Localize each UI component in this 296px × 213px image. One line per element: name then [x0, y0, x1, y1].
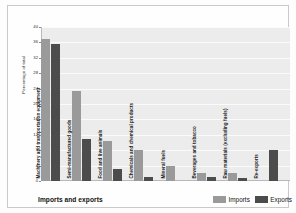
bar-exports[interactable] — [113, 169, 122, 181]
legend-label: Exports — [270, 196, 292, 203]
legend-swatch — [213, 196, 226, 203]
chart-frame: Percentage of total 0481216202428323640 … — [7, 5, 289, 208]
bar-slot — [228, 27, 237, 181]
legend-entry-exports[interactable]: Exports — [255, 196, 292, 203]
bar-slot — [103, 27, 112, 181]
bar-imports[interactable] — [228, 173, 237, 181]
bar-slot — [41, 27, 50, 181]
bar-imports[interactable] — [103, 141, 112, 181]
bar-slot — [72, 27, 81, 181]
category-label: Re-exports — [255, 155, 260, 179]
bar-groups: Machinery and transportation equipmentSe… — [41, 27, 290, 181]
plot-area: 0481216202428323640 Machinery and transp… — [41, 27, 290, 181]
bar-slot — [176, 27, 185, 181]
category-label: Food and live animals — [100, 130, 105, 179]
category-label: Beverages and tobacco — [193, 126, 198, 179]
bar-exports[interactable] — [269, 150, 278, 181]
chart-footer: Imports and exports ImportsExports — [16, 188, 296, 210]
y-tick-label: 28 — [33, 71, 38, 75]
legend-label: Imports — [229, 196, 250, 203]
category-label: Mineral fuels — [162, 150, 167, 179]
y-tick-label: 40 — [33, 25, 38, 29]
x-axis-title: Imports and exports — [38, 196, 103, 203]
bar-slot — [134, 27, 143, 181]
bar-exports[interactable] — [51, 44, 60, 181]
bar-slot — [207, 27, 216, 181]
bar-imports[interactable] — [72, 91, 81, 181]
legend-swatch — [255, 196, 268, 203]
category-label: Raw materials (excluding fuels) — [224, 109, 229, 179]
y-tick-label: 32 — [33, 56, 38, 60]
bar-group: Re-exports — [259, 27, 290, 181]
bar-exports[interactable] — [238, 178, 247, 181]
bar-slot — [82, 27, 91, 181]
bar-exports[interactable] — [82, 139, 91, 181]
bar-slot — [113, 27, 122, 181]
bar-slot — [144, 27, 153, 181]
y-tick-label: 0 — [36, 179, 38, 183]
figure: Percentage of total 0481216202428323640 … — [0, 0, 296, 213]
category-label: Semi-manufactured goods — [69, 120, 74, 179]
y-tick-label: 36 — [33, 40, 38, 44]
bar-slot — [51, 27, 60, 181]
y-axis-title: Percentage of total — [21, 56, 26, 94]
bar-exports[interactable] — [144, 177, 153, 181]
bar-imports[interactable] — [134, 150, 143, 181]
bar-slot — [238, 27, 247, 181]
legend: ImportsExports — [213, 196, 292, 203]
category-label: Machinery and transportation equipment — [37, 88, 42, 179]
legend-entry-imports[interactable]: Imports — [213, 196, 250, 203]
bar-imports[interactable] — [41, 39, 50, 181]
bar-slot — [259, 27, 268, 181]
y-tick-mark — [39, 181, 41, 182]
category-label: Chemicals and chemical products — [131, 103, 136, 179]
bar-slot — [269, 27, 278, 181]
bar-exports[interactable] — [207, 177, 216, 181]
